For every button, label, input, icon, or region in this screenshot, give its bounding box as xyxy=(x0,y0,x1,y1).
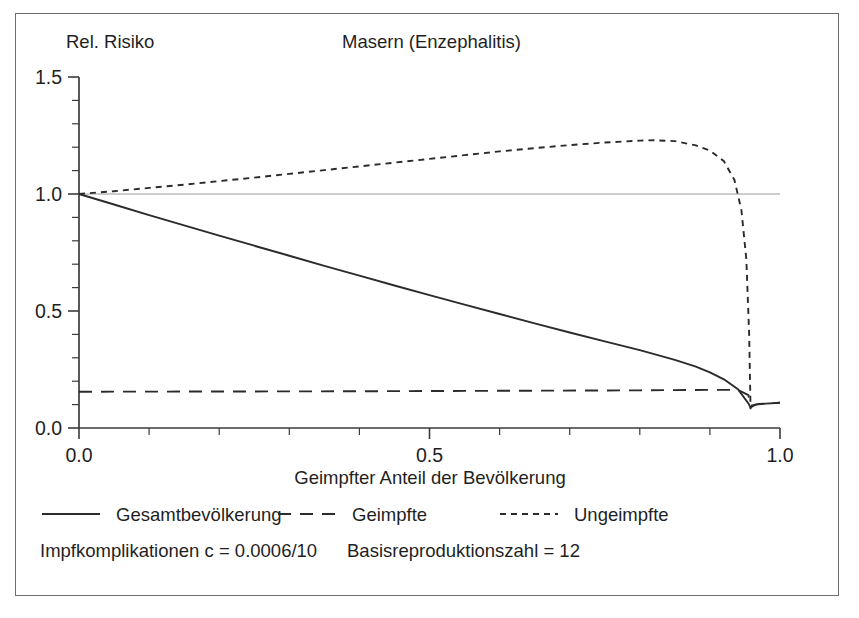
x-axis-caption: Geimpfter Anteil der Bevölkerung xyxy=(294,467,565,488)
y-tick-label: 0.5 xyxy=(35,300,62,322)
note-impfkomplikationen: Impfkomplikationen c = 0.0006/10 xyxy=(40,540,317,561)
series-line-dotted xyxy=(79,140,751,409)
series-line-dashed xyxy=(79,390,780,406)
y-tick-label: 0.0 xyxy=(35,417,62,439)
legend: GesamtbevölkerungGeimpfteUngeimpfte xyxy=(42,504,669,525)
tick-label-group: 0.00.51.01.50.00.51.0 xyxy=(35,66,794,466)
legend-item-ungeimpfte-label: Ungeimpfte xyxy=(574,504,669,525)
tick-group xyxy=(68,77,780,439)
series-group xyxy=(79,140,780,409)
legend-item-geimpfte-label: Geimpfte xyxy=(352,504,427,525)
legend-item-gesamtbevoelkerung-label: Gesamtbevölkerung xyxy=(116,504,282,525)
x-tick-label: 1.0 xyxy=(766,444,793,466)
note-basisreproduktionszahl: Basisreproduktionszahl = 12 xyxy=(347,540,580,561)
y-axis-caption: Rel. Risiko xyxy=(66,31,154,52)
x-tick-label: 0.0 xyxy=(65,444,92,466)
y-tick-label: 1.5 xyxy=(35,66,62,88)
axes-group xyxy=(79,77,780,428)
chart-canvas: Rel. Risiko Masern (Enzephalitis) 0.00.5… xyxy=(0,0,859,618)
y-tick-label: 1.0 xyxy=(35,183,62,205)
plot-title: Masern (Enzephalitis) xyxy=(342,31,521,52)
x-tick-label: 0.5 xyxy=(416,444,443,466)
series-line-solid xyxy=(79,194,780,407)
